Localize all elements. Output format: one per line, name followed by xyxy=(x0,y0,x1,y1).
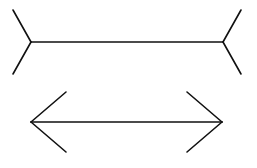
figure-fins-outward xyxy=(13,10,241,74)
muller-lyer-diagram xyxy=(0,0,257,168)
fin-line xyxy=(13,10,31,42)
fin-line xyxy=(187,92,222,122)
figure-arrowheads-inward xyxy=(31,92,222,152)
fin-line xyxy=(31,122,66,152)
fin-line xyxy=(31,92,66,122)
fin-line xyxy=(13,42,31,74)
fin-line xyxy=(187,122,222,152)
fin-line xyxy=(223,10,241,42)
fin-line xyxy=(223,42,241,74)
